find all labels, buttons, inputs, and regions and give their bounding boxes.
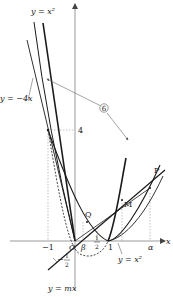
function-graph-diagram: 6 y = x² y = −4x 4 P M Q −1 O β 1 2 1 α … [0, 0, 173, 297]
axes [10, 4, 165, 290]
circled-marker: 6 [100, 104, 108, 113]
point-p [149, 187, 151, 189]
label-line-minus4x: y = −4x [0, 94, 33, 103]
points [47, 129, 151, 223]
label-alpha: α [148, 243, 154, 252]
label-minus-sign: − [57, 255, 64, 264]
label-x-axis: x [166, 237, 171, 246]
label-origin: O [69, 243, 76, 252]
label-q: Q [85, 210, 92, 219]
label-half-num: 1 [95, 234, 99, 241]
labels: y = x² y = −4x 4 P M Q −1 O β 1 2 1 α x … [0, 7, 171, 293]
label-top-parabola: y = x² [30, 7, 55, 16]
x2-pointer [118, 243, 122, 254]
parabola-upper-branch [34, 22, 75, 241]
label-x-minus1: −1 [42, 243, 54, 252]
line-left-thin [27, 40, 75, 241]
marker-arrow-right [107, 113, 128, 140]
point-m [121, 199, 123, 201]
label-y-4: 4 [78, 126, 83, 135]
point-q [86, 221, 88, 223]
label-minus-half-num: 1 [65, 252, 69, 259]
label-m: M [124, 200, 132, 209]
label-p: P [154, 166, 160, 175]
label-minus-half-den: 2 [65, 261, 69, 268]
dashed-curve [48, 130, 108, 256]
point-minus1-4 [47, 129, 49, 131]
label-beta: β [80, 243, 86, 252]
label-right-parabola: y = x² [117, 255, 142, 264]
marker-label: 6 [102, 105, 107, 113]
label-x-1: 1 [108, 243, 113, 252]
label-line-mx: y = mx [47, 284, 77, 293]
parabola-shifted [48, 130, 160, 241]
label-half-den: 2 [95, 243, 99, 250]
